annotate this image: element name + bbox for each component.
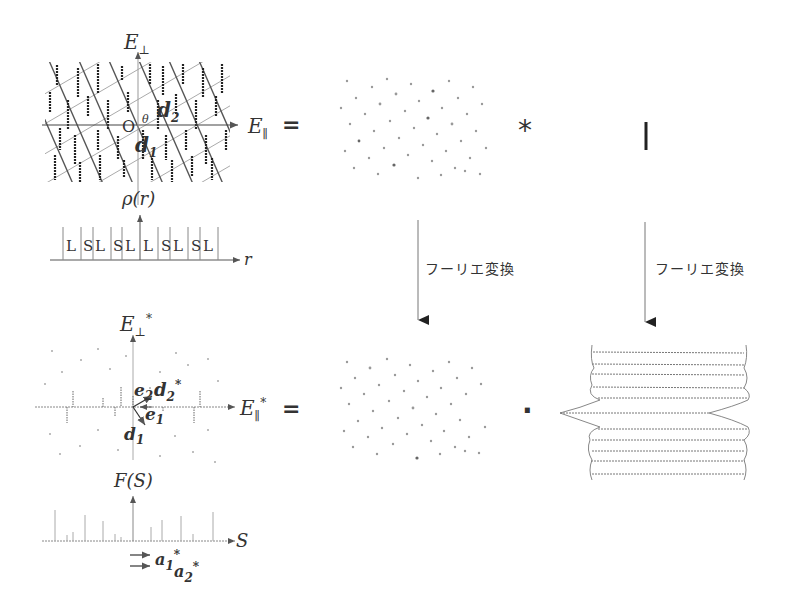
seq-letter: S [113,237,123,255]
label-text: d [135,133,149,157]
fourier-transform-label-2: フーリエ変換 [655,258,745,278]
seq-letter: L [66,237,76,255]
label-text: e [134,380,145,400]
vector-e1-label: e1 [145,404,164,427]
label-text: d [154,379,167,400]
product-symbol: · [522,394,533,427]
seq-letter: L [203,237,213,255]
label-sup: * [146,312,152,326]
label-sub: ⊥ [135,325,146,339]
density-label: ρ(r) [122,188,155,209]
label-sub: 1 [149,146,157,160]
structure-factor-label: F(S) [114,470,153,491]
r-axis-label: r [244,250,252,269]
vector-d2-label: d2 [157,98,179,125]
label-sub: 1 [156,413,164,427]
equals-sign-bottom: = [282,396,300,421]
seq-letter: L [125,237,135,255]
s-axis-label: S [236,530,248,551]
equals-sign-top: = [282,112,300,137]
seq-letter: S [83,237,93,255]
seq-letter: S [191,237,201,255]
fourier-transform-label-1: フーリエ変換 [425,258,515,278]
quasi-lattice-top [340,78,487,179]
quasi-lattice-bottom [340,358,486,460]
label-sub: 2 [145,389,153,403]
vector-d1-label-recip: d1 [124,424,144,447]
axis-label-e-par: E∥ [248,114,268,141]
label-sub: 1 [165,559,173,573]
angle-label: θ [142,113,149,126]
label-text: E [120,312,135,336]
vector-a2-star-label: a2* [174,560,199,585]
label-text: a [174,562,184,581]
label-sub: ∥ [263,127,269,141]
label-text: d [157,98,171,122]
axis-label-e-par-star: E∥* [240,396,266,423]
label-text: a [155,550,165,569]
label-text: E [240,396,255,420]
label-sup: * [175,378,181,392]
label-sub: 2 [184,571,192,585]
convolution-symbol: * [518,114,532,147]
seq-letter: L [95,237,105,255]
seq-letter: L [173,237,183,255]
seq-letter: S [161,237,171,255]
label-sub: 2 [171,111,179,125]
axis-label-e-perp: E⊥ [124,30,150,57]
axis-label-e-perp-star: E⊥* [120,312,152,339]
label-text: e [145,404,156,424]
label-sup: * [260,396,266,410]
label-text: E [124,30,139,54]
label-text: E [248,114,263,138]
label-sup: * [193,560,199,574]
diagram-canvas [0,0,791,606]
label-sub: 1 [136,433,144,447]
label-sub: ∥ [255,409,261,423]
origin-label: O [122,117,135,136]
label-text: d [124,424,136,444]
label-sub: ⊥ [139,43,150,57]
label-sub: 2 [167,390,175,404]
structure-factor-spectrum [42,496,235,566]
seq-letter: L [143,237,153,255]
vector-d1-label: d1 [135,133,157,160]
vector-d2-star-label: d2* [154,378,181,404]
sinc-envelope [560,345,749,480]
vector-e2-label: e2 [134,380,153,403]
